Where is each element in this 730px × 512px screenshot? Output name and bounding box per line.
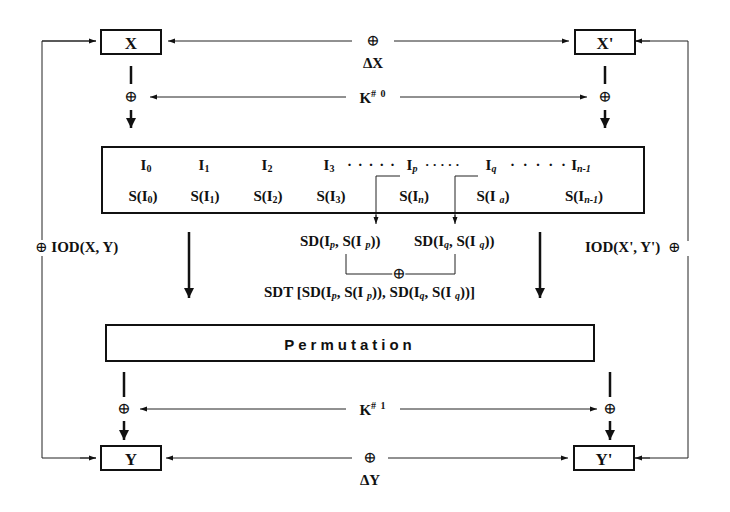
permutation-label: Permutation [107, 337, 593, 352]
dots-3: · · · · · [510, 158, 568, 173]
state-in-1: In-1 [571, 158, 591, 174]
xor-sd-icon: ⊕ [392, 266, 405, 282]
delta-y-label: ΔY [360, 473, 380, 488]
state-ip: Ip [407, 158, 418, 174]
key0-sup: # 0 [371, 88, 387, 99]
y-prime-box: Y' [573, 445, 635, 471]
key0-base: K [359, 90, 371, 106]
xor-iod-right-icon: ⊕ [668, 239, 681, 255]
xor-delta-x-icon: ⊕ [366, 33, 379, 49]
connector-lines [0, 0, 730, 512]
xor-k1-left-icon: ⊕ [117, 401, 130, 417]
state-i2: I2 [262, 158, 273, 174]
state-i0: I0 [141, 158, 152, 174]
iod-left: ⊕ IOD(X, Y) [35, 240, 118, 255]
x-prime-label: X' [576, 35, 634, 52]
sd-p-label: SD(Ip, S(I p)) [300, 234, 380, 250]
sbox-i0: S(I0) [128, 189, 157, 205]
sdt-label: SDT [SD(Ip, S(I p)), SD(Iq, S(I q))] [264, 285, 475, 301]
xor-k1-right-icon: ⊕ [603, 401, 616, 417]
xor-k0-right-icon: ⊕ [598, 89, 611, 105]
sd-q-label: SD(Iq, S(I q)) [414, 234, 494, 250]
key1-base: K [359, 402, 371, 418]
permutation-box: Permutation [105, 324, 595, 362]
dots-1: · · · · · [347, 158, 396, 173]
state-i1: I1 [199, 158, 210, 174]
iod-right-label: IOD(X', Y') [585, 239, 660, 255]
xor-iod-left-icon: ⊕ [35, 239, 48, 255]
state-i3: I3 [324, 158, 335, 174]
sbox-in: S(In) [399, 189, 429, 205]
y-prime-label: Y' [575, 451, 633, 468]
xor-k0-left-icon: ⊕ [124, 89, 137, 105]
sbox-in-1: S(In-1) [565, 189, 603, 205]
key1-sup: # 1 [371, 400, 387, 411]
sbox-ia: S(I a) [477, 189, 510, 205]
iod-right: IOD(X', Y') ⊕ [585, 240, 681, 255]
x-box: X [100, 29, 162, 55]
delta-x-label: ΔX [363, 56, 383, 71]
key0-label: K# 0 [359, 89, 386, 106]
xor-delta-y-icon: ⊕ [363, 450, 376, 466]
y-box: Y [100, 445, 162, 471]
sbox-i3: S(I3) [316, 189, 345, 205]
iod-left-label: IOD(X, Y) [51, 239, 118, 255]
x-label: X [102, 35, 160, 52]
y-label: Y [102, 451, 160, 468]
state-iq: Iq [486, 158, 497, 174]
key1-label: K# 1 [359, 401, 386, 418]
sbox-i1: S(I1) [190, 189, 219, 205]
x-prime-box: X' [574, 29, 636, 55]
sbox-i2: S(I2) [253, 189, 282, 205]
dots-2: · · · · · [425, 158, 460, 171]
